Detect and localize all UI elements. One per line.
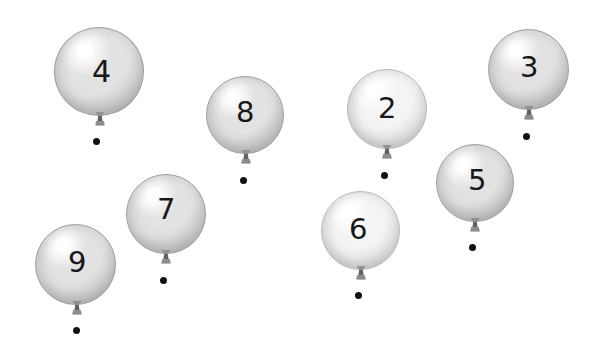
balloon-7-number: 7	[157, 195, 175, 224]
balloon-4-knot-icon	[91, 111, 109, 131]
balloon-9-knot-icon	[68, 300, 86, 320]
balloon-2-number: 2	[378, 94, 396, 123]
balloon-6-dot[interactable]	[355, 292, 362, 299]
balloon-9-number: 9	[68, 248, 86, 277]
balloon-7-knot-icon	[157, 249, 175, 269]
balloon-8-number: 8	[236, 98, 254, 127]
balloon-4-number: 4	[92, 57, 111, 87]
balloon-6-knot-icon	[352, 265, 370, 285]
balloon-8-knot-icon	[237, 149, 255, 169]
balloon-4-dot[interactable]	[93, 138, 100, 145]
balloon-5-knot-icon	[466, 217, 484, 237]
balloon-9-dot[interactable]	[73, 327, 80, 334]
balloon-2-knot-icon	[378, 144, 396, 164]
balloon-canvas: 48235769	[0, 0, 602, 352]
balloon-5-number: 5	[468, 166, 486, 195]
balloon-3-knot-icon	[520, 105, 538, 125]
balloon-3-number: 3	[520, 53, 538, 82]
balloon-6-number: 6	[349, 215, 367, 244]
balloon-2-dot[interactable]	[381, 172, 388, 179]
balloon-8-dot[interactable]	[240, 177, 247, 184]
balloon-5-dot[interactable]	[469, 244, 476, 251]
balloon-7-dot[interactable]	[160, 277, 167, 284]
balloon-3-dot[interactable]	[523, 133, 530, 140]
